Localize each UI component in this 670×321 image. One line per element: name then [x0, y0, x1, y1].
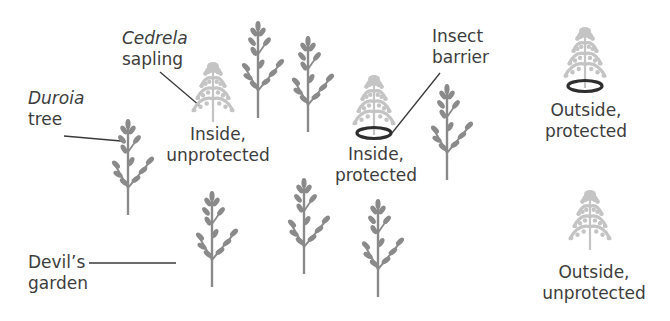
devils-garden-line1: Devil’s [28, 252, 85, 272]
inside-unprotected-line2: unprotected [166, 145, 270, 165]
inside-protected-label: Inside, protected [335, 144, 417, 186]
devils-garden-line2: garden [28, 273, 88, 293]
inside-unprotected-label: Inside, unprotected [166, 124, 270, 166]
inside-protected-line1: Inside, [348, 144, 404, 164]
duroia-tree-icon [111, 119, 156, 215]
duroia-tree-label: Duroia tree [28, 88, 84, 130]
insect-barrier-line1: Insect [432, 26, 483, 46]
experiment-diagram: Cedrela sapling Duroia tree Insect barri… [0, 0, 670, 321]
outside-protected-line2: protected [545, 121, 627, 141]
devils-garden-label: Devil’s garden [28, 252, 88, 294]
outside-unprotected-line2: unprotected [542, 283, 646, 303]
cedrela-sapling-icon-inside-protected [353, 75, 395, 139]
duroia-label-italic: Duroia [28, 88, 84, 108]
inside-protected-line2: protected [335, 165, 417, 185]
duroia-tree-icon [241, 21, 286, 118]
cedrela-label-line2: sapling [122, 49, 183, 69]
duroia-tree-icon [361, 199, 406, 297]
outside-protected-label: Outside, protected [545, 100, 627, 142]
duroia-tree-icon [195, 191, 240, 287]
insect-barrier-leader-line [392, 73, 440, 133]
outside-unprotected-label: Outside, unprotected [542, 262, 646, 304]
outside-protected-line1: Outside, [550, 100, 621, 120]
cedrela-sapling-icon-inside-unprotected [192, 62, 234, 122]
cedrela-sapling-icon-outside-protected [564, 27, 606, 92]
cedrela-leader-line [160, 72, 200, 106]
insect-barrier-label: Insect barrier [432, 26, 489, 68]
duroia-tree-icon [430, 84, 475, 180]
outside-unprotected-line1: Outside, [558, 262, 629, 282]
duroia-tree-icon [287, 178, 332, 274]
duroia-tree-icon [291, 36, 336, 132]
duroia-leader-line [64, 136, 121, 141]
cedrela-sapling-label: Cedrela sapling [122, 28, 188, 70]
inside-unprotected-line1: Inside, [190, 124, 246, 144]
cedrela-sapling-icon-outside-unprotected [569, 190, 611, 250]
insect-barrier-line2: barrier [432, 47, 489, 67]
cedrela-label-italic: Cedrela [122, 28, 188, 48]
duroia-label-line2: tree [28, 109, 62, 129]
